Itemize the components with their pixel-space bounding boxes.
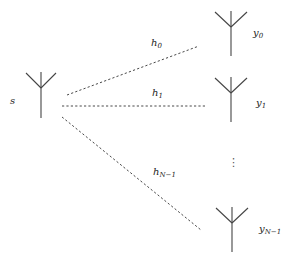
receiver-label-n-1: yN−1	[258, 223, 281, 236]
channel-link-0	[67, 46, 199, 95]
receiver-label-1: y1	[255, 97, 266, 110]
receiver-label-0: y0	[252, 27, 264, 40]
receiver-antenna-icon-n-1	[216, 207, 248, 252]
receiver-antenna-icon-0	[215, 11, 247, 56]
source-antenna-icon	[26, 72, 56, 118]
ellipsis: ⋮	[228, 156, 239, 169]
channel-link-n-1	[62, 117, 201, 230]
channel-label-1: h1	[152, 87, 163, 100]
receiver-antenna-icon-1	[215, 77, 247, 122]
source-label: s	[10, 95, 15, 106]
channel-label-n-1: hN−1	[153, 166, 176, 179]
channel-label-0: h0	[151, 37, 162, 50]
diagram-canvas: s y0 y1 ⋮ yN−1 h0 h1 hN−1	[0, 0, 285, 265]
